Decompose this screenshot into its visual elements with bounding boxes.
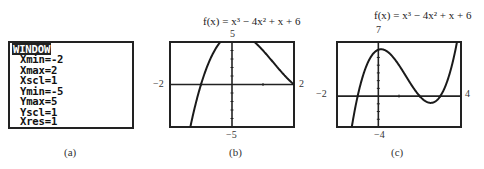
graphs-canvas <box>0 0 484 169</box>
graph-frame <box>337 42 461 127</box>
graph-c <box>337 19 461 169</box>
graph-b <box>170 33 294 169</box>
